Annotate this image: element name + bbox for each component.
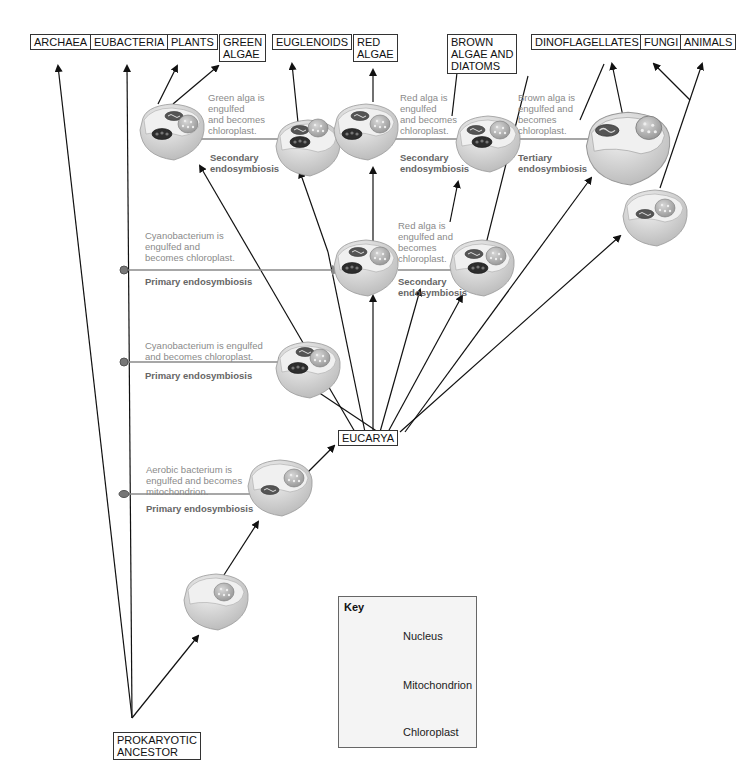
event-note: Red alga is engulfed and becomes chlorop…	[398, 220, 453, 264]
taxon-red-algae: RED ALGAE	[353, 34, 398, 62]
taxon-fungi: FUNGI	[640, 34, 682, 50]
event-note: Green alga is engulfed and becomes chlor…	[208, 92, 265, 136]
event-label: Primary endosymbiosis	[146, 503, 253, 514]
taxon-euglenoids: EUGLENOIDS	[272, 34, 352, 50]
event-label: Secondary endosymbiosis	[210, 152, 279, 174]
event-note: Red alga is engulfed and becomes chlorop…	[400, 92, 457, 136]
taxon-plants: PLANTS	[167, 34, 218, 50]
taxon-archaea: ARCHAEA	[30, 34, 91, 50]
taxon-dinoflagellates: DINOFLAGELLATES	[531, 34, 643, 50]
taxon-brown-algae-diatoms: BROWN ALGAE AND DIATOMS	[447, 34, 517, 74]
key-title: Key	[344, 601, 364, 613]
key-legend: Key Nucleus Mitochondrion Chloroplast	[338, 596, 477, 748]
event-label: Primary endosymbiosis	[145, 276, 252, 287]
key-item-nucleus: Nucleus	[403, 630, 443, 642]
taxon-animals: ANIMALS	[680, 34, 736, 50]
event-note: Cyanobacterium is engulfed and becomes c…	[145, 230, 235, 263]
event-label: Secondary endosymbiosis	[400, 152, 469, 174]
event-label: Secondary endosymbiosis	[398, 276, 467, 298]
event-label: Primary endosymbiosis	[145, 370, 252, 381]
mito-cell	[248, 460, 312, 516]
event-note: Brown alga is engulfed and becomes chlor…	[518, 92, 575, 136]
taxon-green-algae: GREEN ALGAE	[219, 34, 266, 62]
prokaryotic-ancestor: PROKARYOTIC ANCESTOR	[113, 732, 201, 760]
taxon-eubacteria: EUBACTERIA	[90, 34, 168, 50]
event-note: Aerobic bacterium is engulfed and become…	[146, 464, 242, 497]
event-label: Tertiary endosymbiosis	[518, 152, 587, 174]
key-item-chloroplast: Chloroplast	[403, 726, 459, 738]
eucarya-node: EUCARYA	[338, 430, 398, 446]
key-item-mitochondrion: Mitochondrion	[403, 679, 472, 691]
event-note: Cyanobacterium is engulfed and becomes c…	[145, 340, 263, 362]
prokaryote-cell	[184, 574, 248, 630]
